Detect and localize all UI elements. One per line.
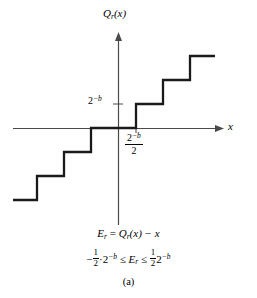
equation-error-definition: Er = Qr(x) − x (0, 228, 257, 240)
x-axis-arrowhead (215, 125, 224, 132)
x-tick-denominator: 2 (125, 145, 143, 157)
equation-error-bounds: −12·2−b ≤ Er ≤ 122−b (0, 248, 257, 269)
x-axis-tick-label: 2−b 2 (125, 132, 143, 156)
eq2-less-equal-right: ≤ (138, 253, 150, 265)
figure-caption: (a) (0, 277, 257, 288)
x-tick-numerator: 2−b (125, 132, 143, 145)
eq1-equals: = (107, 227, 119, 239)
eq2-power-exponent-left: −b (108, 252, 117, 261)
eq2-power-exponent-right: −b (162, 252, 171, 261)
y-axis-tick-label: 2−b (88, 95, 102, 106)
eq1-rhs-argument: (x) − x (130, 227, 160, 239)
eq1-rhs-base: Q (119, 227, 127, 239)
y-axis-arrowhead (115, 32, 122, 41)
y-axis-label-base: Q (103, 7, 111, 19)
y-tick-exponent: −b (93, 94, 102, 103)
x-tick-fraction: 2−b 2 (125, 132, 143, 156)
quantizer-figure: Qr(x) x 2−b 2−b 2 Er = Qr(x) − x −12·2−b… (0, 0, 257, 298)
x-axis-label: x (228, 121, 233, 132)
eq2-less-equal-left: ≤ (117, 253, 129, 265)
y-axis-label: Qr(x) (103, 8, 126, 20)
x-tick-numerator-exponent: −b (132, 131, 141, 140)
y-axis-label-argument: (x) (114, 7, 126, 19)
